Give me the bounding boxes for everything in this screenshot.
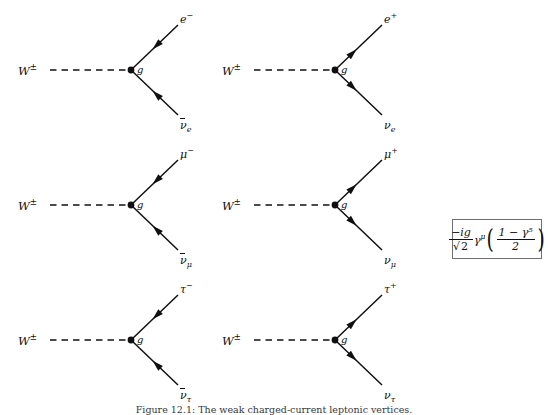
w-boson-label: W± xyxy=(222,198,241,212)
interaction-vertex xyxy=(332,337,339,344)
lower-fermion-line xyxy=(335,205,382,250)
w-boson-label: W± xyxy=(18,198,37,212)
lower-particle-label: νμ xyxy=(384,255,396,269)
figure-caption-label: Figure 12.1: xyxy=(136,404,195,415)
vertex-factor-formula: −ig √2 γμ ( 1 − γ⁵ 2 ) xyxy=(448,227,546,252)
feynman-diagram-w-to-antitau-neutrino: W±gτ+ντ xyxy=(222,272,432,412)
coupling-label: g xyxy=(137,65,143,75)
interaction-vertex xyxy=(128,67,135,74)
coupling-label: g xyxy=(341,65,347,75)
coupling-label: g xyxy=(341,335,347,345)
projector-numerator: 1 − γ⁵ xyxy=(497,227,535,240)
right-paren: ) xyxy=(537,229,544,249)
lower-particle-label: ντ xyxy=(180,390,191,404)
lower-particle-label: νe xyxy=(384,120,395,134)
upper-particle-label: e− xyxy=(180,12,193,25)
gamma-index: μ xyxy=(480,232,485,241)
w-boson-label: W± xyxy=(18,333,37,347)
chiral-projector-fraction: 1 − γ⁵ 2 xyxy=(497,227,535,252)
upper-particle-label: τ− xyxy=(180,282,193,295)
interaction-vertex xyxy=(128,202,135,209)
coupling-fraction: −ig √2 xyxy=(449,227,473,252)
coupling-label: g xyxy=(137,335,143,345)
coupling-label: g xyxy=(341,200,347,210)
figure-canvas: W±ge−νeW±ge+νeW±gμ−νμW±gμ+νμW±gτ−ντW±gτ+… xyxy=(0,0,548,415)
feynman-diagram-w-to-antimuon-neutrino: W±gμ+νμ xyxy=(222,137,432,277)
lower-particle-label: ντ xyxy=(384,390,395,404)
upper-particle-label: e+ xyxy=(384,12,397,25)
lower-fermion-line xyxy=(335,70,382,115)
left-paren: ( xyxy=(487,229,494,249)
upper-particle-label: μ+ xyxy=(384,147,398,160)
figure-caption-text: The weak charged-current leptonic vertic… xyxy=(198,404,412,415)
feynman-diagram-w-to-muon-antineutrino: W±gμ−νμ xyxy=(18,137,228,277)
figure-caption: Figure 12.1: The weak charged-current le… xyxy=(0,404,548,415)
w-boson-label: W± xyxy=(18,63,37,77)
feynman-diagram-w-to-tau-antineutrino: W±gτ−ντ xyxy=(18,272,228,412)
vertex-factor-box: −ig √2 γμ ( 1 − γ⁵ 2 ) xyxy=(452,219,542,259)
upper-particle-label: τ+ xyxy=(384,282,397,295)
interaction-vertex xyxy=(332,202,339,209)
gamma-matrix: γμ xyxy=(474,233,485,246)
lower-particle-label: νe xyxy=(180,120,191,134)
coupling-denominator: √2 xyxy=(452,240,470,252)
lower-particle-label: νμ xyxy=(180,255,192,269)
projector-denominator: 2 xyxy=(510,240,521,252)
feynman-diagram-w-to-electron-antineutrino: W±ge−νe xyxy=(18,2,228,142)
interaction-vertex xyxy=(128,337,135,344)
lower-fermion-line xyxy=(335,340,382,385)
w-boson-label: W± xyxy=(222,63,241,77)
w-boson-label: W± xyxy=(222,333,241,347)
interaction-vertex xyxy=(332,67,339,74)
upper-particle-label: μ− xyxy=(180,147,194,160)
coupling-label: g xyxy=(137,200,143,210)
coupling-numerator: −ig xyxy=(449,227,473,240)
feynman-diagram-w-to-positron-neutrino: W±ge+νe xyxy=(222,2,432,142)
